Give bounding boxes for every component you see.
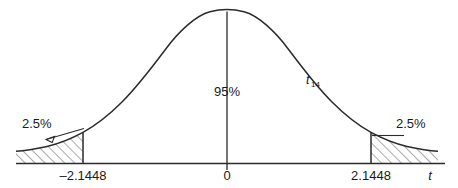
left-tail-percent-label: 2.5% (22, 116, 52, 131)
central-area-label: 95% (214, 84, 240, 99)
left-callout-arrowhead (46, 136, 55, 142)
x-tick-label-left: –2.1448 (60, 168, 107, 183)
x-axis-label: t (428, 168, 433, 183)
curve-label-group: t 14 (306, 73, 320, 89)
t-distribution-figure: 2.5% 2.5% 95% –2.1448 0 2.1448 t t 14 (0, 0, 458, 188)
figure-canvas: 2.5% 2.5% 95% –2.1448 0 2.1448 t t 14 (0, 0, 458, 188)
x-tick-label-right: 2.1448 (351, 168, 391, 183)
curve-label-base: t (306, 73, 310, 87)
right-tail-percent-label: 2.5% (396, 116, 426, 131)
curve-label-subscript: 14 (311, 80, 320, 89)
x-tick-label-center: 0 (223, 168, 230, 183)
